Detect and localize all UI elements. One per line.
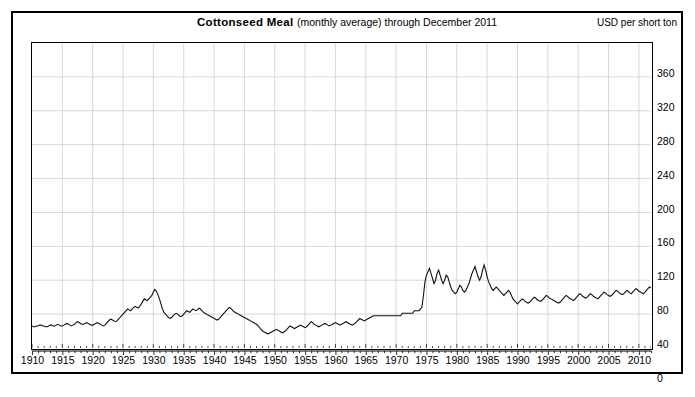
chart-unit-label: USD per short ton xyxy=(597,17,677,28)
y-axis: 04080120160200240280320360 xyxy=(657,36,687,361)
y-axis-tick-label: 200 xyxy=(657,204,675,215)
y-axis-tick-label: 240 xyxy=(657,170,675,181)
y-axis-tick-label: 120 xyxy=(657,271,675,282)
cottonseed-meal-series xyxy=(32,53,651,333)
x-axis-ruler xyxy=(31,350,653,356)
x-axis-inner-ticks xyxy=(32,344,651,348)
y-axis-tick-label: 360 xyxy=(657,68,675,79)
y-axis-tick-label: 280 xyxy=(657,136,675,147)
y-axis-tick-label: 40 xyxy=(657,339,669,350)
chart-title-main: Cottonseed Meal xyxy=(197,16,297,28)
y-axis-tick-label: 0 xyxy=(657,373,663,384)
y-axis-tick-label: 320 xyxy=(657,102,675,113)
y-axis-tick-label: 160 xyxy=(657,237,675,248)
chart-title-sub: (monthly average) through December 2011 xyxy=(297,16,497,28)
y-axis-tick-label: 80 xyxy=(657,305,669,316)
chart-header: Cottonseed Meal (monthly average) throug… xyxy=(13,14,681,36)
page-title: Cottonseed Meal (monthly average) throug… xyxy=(13,16,681,28)
plot-area xyxy=(31,42,653,350)
gridlines xyxy=(32,43,651,348)
price-line-chart xyxy=(32,43,651,348)
chart-page: Cottonseed Meal (monthly average) throug… xyxy=(0,0,695,397)
x-axis: 1910191519201925193019351940194519501955… xyxy=(0,354,695,370)
